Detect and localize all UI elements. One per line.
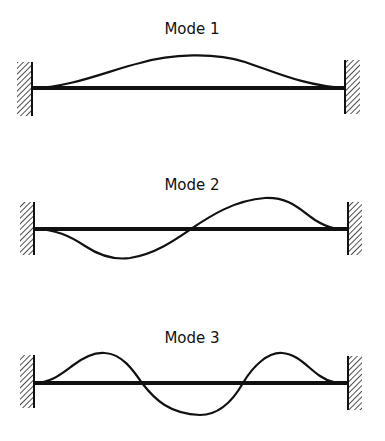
right-fixed-support-hatch xyxy=(348,202,362,255)
mode-3-group: Mode 3 xyxy=(20,329,362,415)
mode-3-title: Mode 3 xyxy=(164,329,219,347)
mode-1-group: Mode 1 xyxy=(17,20,360,116)
mode-1-shape-curve xyxy=(32,55,345,88)
mode-shapes-diagram: Mode 1 Mode 2 Mode 3 xyxy=(0,0,385,441)
left-fixed-support-hatch xyxy=(20,355,34,408)
right-fixed-support-hatch xyxy=(348,356,362,410)
mode-2-group: Mode 2 xyxy=(20,176,362,259)
right-fixed-support-hatch xyxy=(345,60,360,114)
mode-2-title: Mode 2 xyxy=(164,176,219,194)
left-fixed-support-hatch xyxy=(20,202,34,255)
left-fixed-support-hatch xyxy=(17,62,32,116)
mode-1-title: Mode 1 xyxy=(164,20,219,38)
